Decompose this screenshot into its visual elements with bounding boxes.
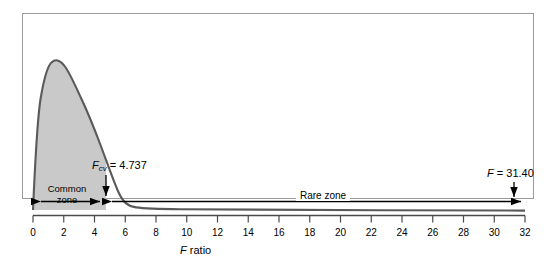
observed-value-number: = 31.40 [494,167,534,179]
critical-value-symbol: F [92,159,99,171]
x-tick-label: 28 [458,228,469,238]
x-tick-label: 0 [30,228,36,238]
x-tick-label: 20 [335,228,346,238]
x-tick-label: 24 [396,228,407,238]
x-tick-label: 26 [427,228,438,238]
x-tick-label: 6 [122,228,128,238]
x-tick-label: 32 [519,228,530,238]
critical-value-subscript: cv [99,164,107,173]
x-tick-label: 16 [273,228,284,238]
x-axis-title-text: ratio [187,244,211,256]
x-tick-label: 22 [366,228,377,238]
x-axis-title: F ratio [180,245,211,256]
x-tick-label: 18 [304,228,315,238]
observed-value-symbol: F [487,167,494,179]
x-tick-label: 12 [212,228,223,238]
x-tick-label: 2 [61,228,67,238]
x-axis-title-symbol: F [180,244,187,256]
common-zone-line-2: zone [57,194,78,205]
x-tick-label: 30 [489,228,500,238]
critical-value-label: Fcv = 4.737 [92,160,147,173]
common-zone-line-1: Common [48,183,87,194]
x-tick-label: 4 [92,228,98,238]
x-tick-label: 8 [153,228,159,238]
density-curve [33,60,525,210]
figure-container: 0 2 4 6 8 10 12 14 16 18 20 22 24 26 28 … [0,0,555,266]
x-tick-label: 10 [181,228,192,238]
x-tick-label: 14 [243,228,254,238]
rare-zone-label: Rare zone [296,191,350,201]
x-axis-ticks [33,216,525,223]
observed-value-label: F = 31.40 [487,168,534,179]
critical-value-number: = 4.737 [107,159,147,171]
common-zone-label: Commonzone [39,184,95,206]
